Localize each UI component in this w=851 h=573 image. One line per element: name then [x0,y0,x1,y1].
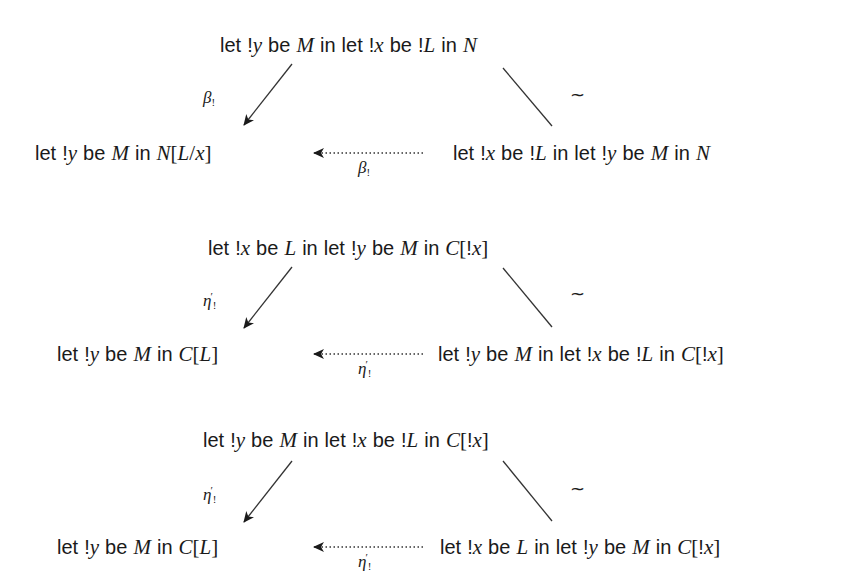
diagram-3-equivalence-label: ~ [570,478,585,499]
label-sub: ! [366,166,370,178]
equivalence-edge [503,268,552,327]
diagram-1-left-arrow-label: β! [203,88,215,108]
eta-reduction-arrow [244,461,292,522]
equivalence-edge [503,68,552,126]
diagram-2-bottom-left-term: let !y be M in C[L] [57,342,218,366]
label-sub: ! [368,367,372,379]
diagram-3-bottom-right-term: let !x be L in let !y be M in C[!x] [440,535,720,559]
beta-reduction-arrow [244,64,292,125]
diagram-1-edges [244,64,552,153]
diagram-1-bottom-arrow-label: β! [358,158,370,178]
arrows-layer [0,0,851,573]
diagram-3-bottom-arrow-label: η′! [358,551,372,572]
diagram-3-bottom-left-term: let !y be M in C[L] [57,535,218,559]
diagram-3-top-term: let !y be M in let !x be !L in C[!x] [203,428,489,452]
diagram-3-left-arrow-label: η′! [203,484,217,505]
equivalence-edge [503,461,552,521]
label-sub: ! [211,96,215,108]
eta-reduction-arrow [244,267,292,328]
label-sub: ! [213,299,217,311]
diagram-2-edges [244,267,552,354]
diagram-canvas: let !y be M in let !x be !L in N let !y … [0,0,851,573]
diagram-1-equivalence-label: ~ [570,84,585,105]
label-sub: ! [368,560,372,572]
diagram-2-left-arrow-label: η′! [203,290,217,311]
diagram-2-equivalence-label: ~ [570,283,585,304]
diagram-2-bottom-right-term: let !y be M in let !x be !L in C[!x] [438,342,724,366]
diagram-1-top-term: let !y be M in let !x be !L in N [220,33,477,57]
diagram-1-bottom-left-term: let !y be M in N[L/x] [35,141,211,165]
label-sub: ! [213,493,217,505]
diagram-2-top-term: let !x be L in let !y be M in C[!x] [208,236,488,260]
diagram-1-bottom-right-term: let !x be !L in let !y be M in N [453,141,710,165]
diagram-2-bottom-arrow-label: η′! [358,358,372,379]
